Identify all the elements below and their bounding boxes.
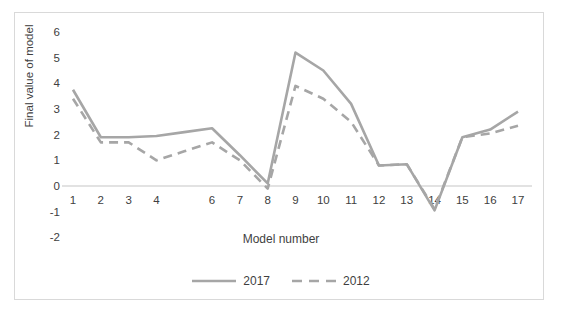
chart-legend: 20172012: [0, 274, 562, 288]
x-axis-title: Model number: [0, 232, 562, 246]
legend-item-2017[interactable]: 2017: [192, 274, 270, 288]
legend-item-2012[interactable]: 2012: [292, 274, 370, 288]
series-line-2012: [73, 86, 518, 209]
legend-label: 2017: [243, 274, 270, 288]
legend-swatch-solid-icon: [192, 276, 236, 286]
chart-plot-area: [0, 0, 562, 318]
legend-swatch-dashed-icon: [292, 276, 336, 286]
legend-label: 2012: [343, 274, 370, 288]
chart-figure: Final value of model 6543210-1-2 1234678…: [0, 0, 562, 318]
